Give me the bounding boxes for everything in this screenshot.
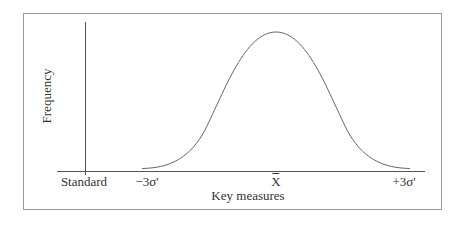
y-axis-label: Frequency bbox=[40, 69, 53, 124]
normal-curve bbox=[142, 32, 410, 169]
tick-minus-3-sigma: −3σ' bbox=[135, 175, 158, 188]
x-axis-label: Key measures bbox=[211, 189, 284, 202]
tick-standard: Standard bbox=[61, 175, 107, 188]
mean-symbol: X bbox=[271, 175, 280, 188]
tick-mean: X bbox=[271, 175, 280, 188]
tick-plus-3-sigma: +3σ' bbox=[392, 175, 415, 188]
